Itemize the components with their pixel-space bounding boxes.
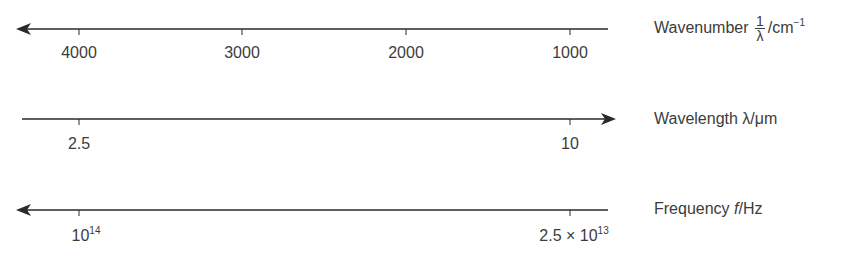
frequency-axis-line [16,204,608,216]
axis-unit: /cm [768,19,794,36]
tick-label: 10 [561,135,579,153]
fraction-numerator: 1 [755,14,765,29]
tick-label-base: 2.5 × 10 [539,227,597,244]
axis-unit-exponent: −1 [794,17,805,28]
tick-label: 4000 [61,44,97,62]
axis-unit: /μm [750,110,777,127]
axis-label-text: Wavenumber [654,19,749,36]
fraction-denominator: λ [755,29,765,43]
wavenumber-axis-label: Wavenumber 1 λ /cm−1 [654,14,805,43]
axis-unit: /Hz [739,200,763,217]
wavenumber-axis-line [16,23,608,35]
frequency-axis-label: Frequency f/Hz [654,200,763,218]
tick-label: 2000 [388,44,424,62]
tick-label-exponent: 14 [89,225,100,236]
tick-label: 3000 [224,44,260,62]
tick-label: 2.5 [68,135,90,153]
tick-label-base: 10 [72,227,90,244]
one-over-lambda-fraction: 1 λ [755,14,765,43]
tick-label: 2.5 × 1013 [539,225,608,245]
tick-label-exponent: 13 [598,225,609,236]
tick-label: 1014 [72,225,101,245]
tick-label: 1000 [552,44,588,62]
wavelength-axis-line [22,113,616,125]
axis-label-text: Wavelength [654,110,738,127]
wavelength-axis-label: Wavelength λ/μm [654,110,777,128]
axis-label-text: Frequency [654,200,730,217]
